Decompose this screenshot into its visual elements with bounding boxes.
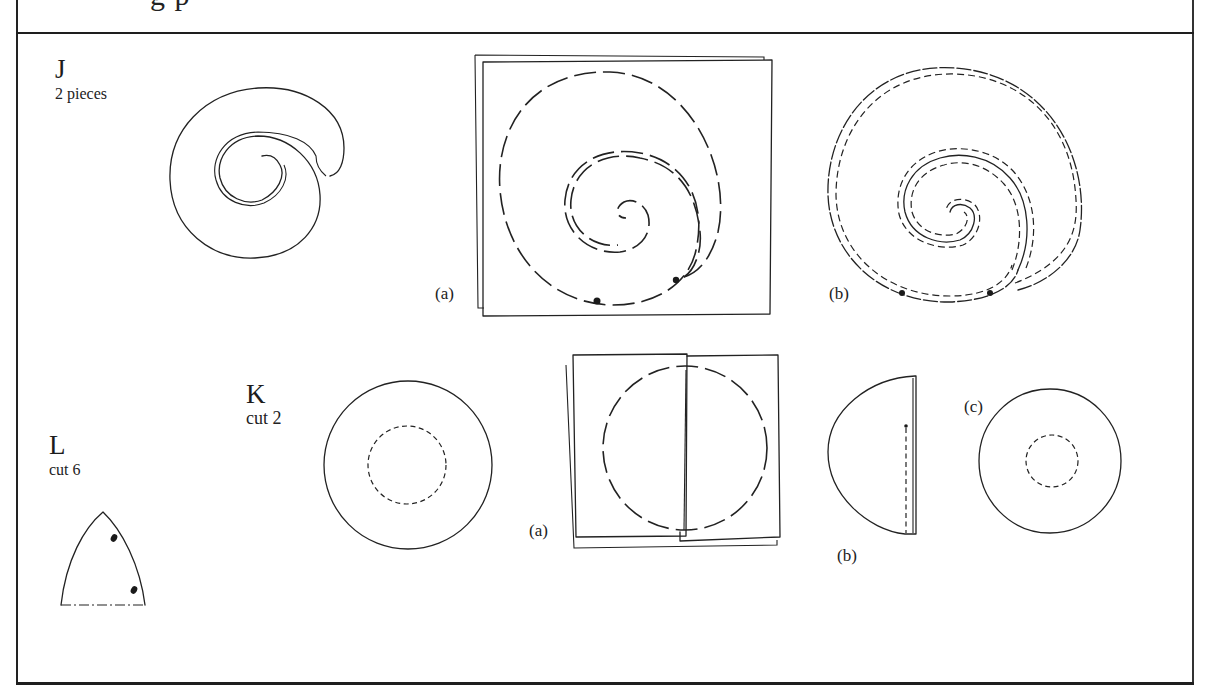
k-step-b-drawing	[828, 376, 916, 534]
j-step-a-drawing	[475, 55, 772, 316]
pattern-page: g p J 2 pieces K cut 2 L cut 6 (a) (b) (…	[0, 0, 1214, 691]
pattern-drawings	[0, 0, 1214, 691]
l-gusset-piece	[61, 512, 145, 605]
j-spiral-piece	[170, 88, 344, 258]
j-step-b-drawing	[828, 68, 1082, 302]
k-circle-piece	[324, 381, 492, 549]
k-step-a-drawing	[566, 354, 780, 548]
k-step-c-drawing	[979, 389, 1121, 533]
